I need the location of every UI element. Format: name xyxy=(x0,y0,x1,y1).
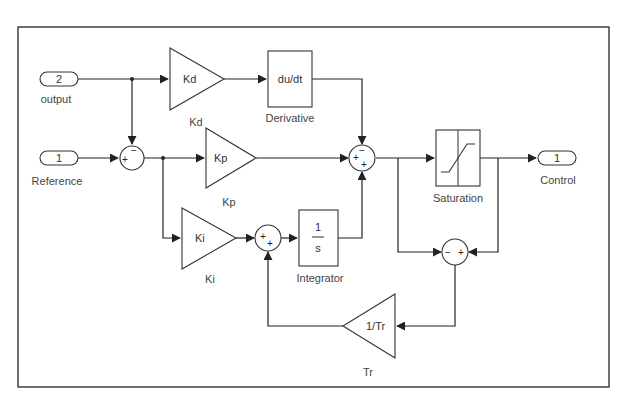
gain-symbol: Kd xyxy=(183,73,196,85)
wire-windup-sum-to-tr xyxy=(397,265,455,326)
integrator-label: Integrator xyxy=(296,272,343,284)
sum-sign-plus: + xyxy=(458,247,464,258)
wire-integrator-to-pid-sum xyxy=(338,172,362,238)
gain-symbol: 1/Tr xyxy=(366,320,385,332)
gain-label: Kd xyxy=(189,116,202,128)
sum-sign-minus: − xyxy=(359,145,365,156)
inport-label: Reference xyxy=(32,175,83,187)
wire-derivative-to-pid-sum xyxy=(312,79,362,144)
derivative-label: Derivative xyxy=(266,112,315,124)
wire-pid-sum-to-windup-sum xyxy=(398,158,441,252)
diagram-frame xyxy=(18,27,609,387)
sum-integrator[interactable]: + + xyxy=(255,225,281,251)
gain-symbol: Ki xyxy=(195,232,205,244)
inport-reference[interactable]: 1 Reference xyxy=(32,151,83,187)
outport-control[interactable]: 1 Control xyxy=(538,151,576,186)
gain-kd[interactable]: Kd Kd xyxy=(170,48,224,128)
sum-sign-minus: − xyxy=(131,145,137,156)
gain-label: Kp xyxy=(222,196,235,208)
block-derivative[interactable]: du/dt Derivative xyxy=(266,51,315,124)
branch-point xyxy=(130,77,134,81)
sum-sign-plus: + xyxy=(122,154,128,165)
sum-sign-plus: + xyxy=(353,152,359,163)
gain-label: Tr xyxy=(363,366,373,378)
outport-number: 1 xyxy=(554,152,560,164)
inport-number: 2 xyxy=(56,73,62,85)
sum-windup[interactable]: − + xyxy=(442,239,468,265)
block-integrator[interactable]: 1 s Integrator xyxy=(296,210,343,284)
inport-label: output xyxy=(41,93,72,105)
inport-number: 1 xyxy=(56,152,62,164)
integrator-numerator: 1 xyxy=(315,221,321,233)
sum-error[interactable]: + − xyxy=(120,145,144,170)
inport-output[interactable]: 2 output xyxy=(40,72,78,105)
sum-sign-plus: + xyxy=(267,238,273,249)
outport-label: Control xyxy=(540,174,575,186)
block-saturation[interactable]: Saturation xyxy=(433,130,483,204)
derivative-content: du/dt xyxy=(278,73,302,85)
gain-tr[interactable]: 1/Tr Tr xyxy=(343,294,395,378)
saturation-label: Saturation xyxy=(433,192,483,204)
gain-kp[interactable]: Kp Kp xyxy=(206,128,256,208)
sum-pid[interactable]: − + + xyxy=(349,145,375,171)
gain-ki[interactable]: Ki Ki xyxy=(182,208,236,285)
block-diagram-canvas: 2 output 1 Reference 1 Control + − − + +… xyxy=(0,0,620,402)
wire-error-to-ki xyxy=(163,158,180,238)
sum-sign-minus: − xyxy=(445,247,451,258)
gain-label: Ki xyxy=(205,273,215,285)
sum-sign-plus: + xyxy=(260,231,266,242)
sum-sign-plus: + xyxy=(361,159,367,170)
gain-symbol: Kp xyxy=(214,152,227,164)
integrator-denominator: s xyxy=(315,242,321,254)
